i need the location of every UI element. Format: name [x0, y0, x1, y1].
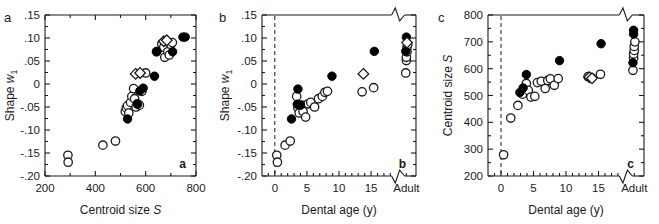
data-point-circle-open: [531, 92, 539, 100]
data-point-circle-open: [99, 141, 107, 149]
data-point-circle-open: [499, 151, 507, 159]
data-point-circle-filled: [296, 101, 304, 109]
y-axis-ticks: -.20-.15-.10-.050.05.10.15: [20, 9, 196, 182]
y-tick-label: .15: [241, 9, 257, 21]
y-tick-label: -.20: [20, 170, 40, 182]
data-point-circle-open: [402, 69, 410, 77]
data-point-circle-open: [286, 137, 294, 145]
y-tick-label: .05: [241, 55, 257, 67]
data-points: [273, 33, 413, 167]
data-point-circle-filled: [555, 56, 563, 64]
data-point-circle-filled: [294, 85, 302, 93]
data-point-circle-filled: [522, 70, 530, 78]
data-point-circle-filled: [402, 47, 410, 55]
y-tick-label: .05: [24, 55, 40, 67]
data-point-circle-open: [111, 137, 119, 145]
y-tick-label: 600: [464, 63, 483, 75]
data-point-circle-open: [310, 103, 318, 111]
y-tick-label: 0: [251, 78, 257, 90]
panel-b: -.20-.15-.10-.050.05.10.15051015AdultbbD…: [215, 0, 435, 224]
data-point-circle-filled: [597, 40, 605, 48]
y-tick-label: 200: [464, 170, 483, 182]
x-axis-title: Dental age (y): [301, 203, 376, 217]
x-axis-title: Dental age (y): [528, 203, 603, 217]
data-point-circle-open: [273, 158, 281, 166]
data-point-circle-open: [507, 114, 515, 122]
y-axis-title: Shape w1: [218, 70, 234, 122]
y-tick-label: 700: [464, 36, 483, 48]
panel-a: -.20-.15-.10-.050.05.10.15200400600800aa…: [0, 0, 220, 224]
y-tick-label: .10: [24, 32, 40, 44]
data-point-circle-open: [64, 158, 72, 166]
data-point-circle-filled: [133, 100, 141, 108]
x-tick-label: 0: [272, 182, 278, 194]
y-tick-label: -.05: [20, 101, 40, 113]
panel-c: 200300400500600700800051015AdultccDental…: [430, 0, 659, 224]
panel-tag: b: [399, 157, 406, 171]
y-tick-label: .15: [24, 9, 40, 21]
x-tick-label: 800: [186, 182, 205, 194]
y-tick-label: .10: [241, 32, 257, 44]
y-tick-label: -.15: [20, 147, 40, 159]
plot-frame: [488, 8, 644, 183]
y-tick-label: 400: [464, 116, 483, 128]
data-point-circle-open: [541, 84, 549, 92]
data-point-circle-open: [554, 74, 562, 82]
x-tick-label: 15: [592, 182, 605, 194]
panel-letter: a: [4, 10, 12, 25]
y-tick-label: -.05: [237, 101, 257, 113]
data-point-circle-open: [358, 88, 366, 96]
x-tick-label: 15: [365, 182, 378, 194]
data-point-circle-filled: [519, 84, 527, 92]
data-point-diamond-open: [358, 69, 369, 80]
series-open-circle: [499, 38, 639, 159]
data-point-circle-open: [301, 113, 309, 121]
data-points: [499, 26, 639, 159]
data-point-circle-open: [596, 70, 604, 78]
y-tick-label: -.15: [237, 147, 257, 159]
x-tick-label-adult: Adult: [621, 182, 648, 194]
x-tick-label: 10: [333, 182, 346, 194]
y-axis-title: Centroid size S: [441, 55, 455, 136]
y-tick-label: -.20: [237, 170, 257, 182]
data-point-circle-filled: [629, 26, 637, 34]
x-tick-label: 5: [304, 182, 310, 194]
data-point-circle-filled: [181, 33, 189, 41]
x-tick-label: 0: [498, 182, 504, 194]
data-point-circle-filled: [139, 84, 147, 92]
x-axis-ticks: 051015Adult: [268, 171, 420, 194]
data-point-circle-filled: [370, 47, 378, 55]
x-tick-label: 400: [86, 182, 105, 194]
data-point-circle-filled: [153, 47, 161, 55]
series-open-circle: [64, 37, 177, 166]
data-point-circle-open: [631, 38, 639, 46]
y-tick-label: 500: [464, 90, 483, 102]
panel-letter: c: [438, 10, 445, 25]
data-point-circle-filled: [150, 72, 158, 80]
data-point-circle-filled: [328, 72, 336, 80]
data-point-circle-open: [514, 101, 522, 109]
x-axis-ticks: 051015Adult: [495, 171, 649, 194]
y-tick-label: 0: [34, 78, 40, 90]
series-filled-circle: [516, 26, 638, 97]
panel-letter: b: [219, 10, 226, 25]
data-point-circle-filled: [629, 59, 637, 67]
data-point-circle-filled: [168, 48, 176, 56]
data-point-circle-open: [369, 83, 377, 91]
y-tick-label: 300: [464, 143, 483, 155]
data-point-circle-open: [323, 87, 331, 95]
y-axis-title: Shape w1: [3, 70, 19, 122]
plot-frame: [262, 8, 416, 183]
x-tick-label: 5: [530, 182, 536, 194]
panel-tag: a: [179, 157, 186, 171]
panel-tag: c: [627, 157, 634, 171]
y-axis-ticks: 200300400500600700800: [464, 9, 644, 182]
y-tick-label: -.10: [20, 124, 40, 136]
figure-container: -.20-.15-.10-.050.05.10.15200400600800aa…: [0, 0, 659, 224]
x-tick-label: 200: [35, 182, 54, 194]
data-point-circle-filled: [123, 115, 131, 123]
y-tick-label: -.10: [237, 124, 257, 136]
y-tick-label: 800: [464, 9, 483, 21]
data-point-circle-filled: [287, 115, 295, 123]
data-points: [64, 33, 190, 167]
